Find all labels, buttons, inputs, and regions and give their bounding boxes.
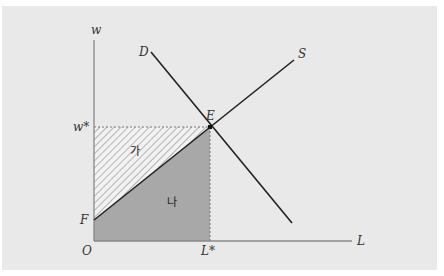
equilibrium-point bbox=[208, 125, 212, 129]
equilibrium-label: E bbox=[205, 109, 215, 123]
region-na-label: 나 bbox=[167, 196, 177, 209]
supply-label: S bbox=[298, 47, 306, 61]
region-ga-label: 가 bbox=[130, 145, 140, 158]
labor-market-diagram: w L O D S E w* L* F 가 나 bbox=[0, 0, 444, 276]
labor-star-label: L* bbox=[200, 244, 215, 258]
supply-intercept-label: F bbox=[79, 213, 89, 227]
origin-label: O bbox=[82, 244, 92, 258]
x-axis-label: L bbox=[356, 234, 365, 248]
wage-star-label: w* bbox=[73, 120, 89, 134]
y-axis-label: w bbox=[91, 23, 102, 37]
demand-label: D bbox=[138, 45, 149, 59]
